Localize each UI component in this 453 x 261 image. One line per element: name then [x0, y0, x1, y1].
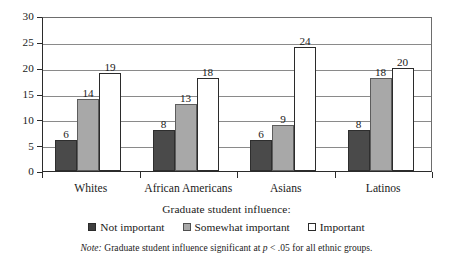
x-axis-start-tick [42, 172, 43, 178]
y-tick-label-30: 30 [0, 11, 34, 22]
legend-item-somewhat-important[interactable]: Somewhat important [183, 221, 290, 233]
legend-item-label: Important [320, 221, 365, 233]
plot-area: 6141981318692481820 [42, 17, 432, 172]
bar-latinos-not-important [348, 130, 370, 171]
legend-item-label: Somewhat important [195, 221, 290, 233]
y-tick-label-0: 0 [0, 166, 34, 177]
legend-item-important[interactable]: Important [308, 221, 365, 233]
y-tick-label-5: 5 [0, 141, 34, 152]
bar-african-americans-somewhat-important [175, 104, 197, 171]
legend: Not importantSomewhat importantImportant [0, 221, 453, 233]
note-prefix: Note: [80, 243, 101, 253]
x-label-asians: Asians [237, 183, 335, 195]
figure-note: Note: Graduate student influence signifi… [0, 243, 453, 253]
bar-value-label: 19 [93, 62, 127, 73]
x-group-separator [140, 172, 141, 178]
bar-asians-not-important [250, 140, 272, 171]
x-group-separator [237, 172, 238, 178]
y-tick-label-20: 20 [0, 63, 34, 74]
x-axis-end-tick [432, 172, 433, 178]
bar-african-americans-important [197, 78, 219, 171]
bar-asians-somewhat-important [272, 125, 294, 172]
y-tick-label-15: 15 [0, 89, 34, 100]
bar-value-label: 20 [386, 57, 420, 68]
bar-value-label: 24 [288, 36, 322, 47]
bar-latinos-important [392, 68, 414, 171]
legend-item-label: Not important [100, 221, 164, 233]
legend-item-not-important[interactable]: Not important [88, 221, 164, 233]
bar-african-americans-not-important [153, 130, 175, 171]
legend-title: Graduate student influence: [0, 203, 453, 215]
legend-swatch-icon [308, 223, 316, 231]
y-tick-label-25: 25 [0, 37, 34, 48]
bar-chart-figure: 051015202530 6141981318692481820 WhitesA… [0, 0, 453, 261]
gridline-25 [43, 44, 431, 45]
legend-swatch-icon [88, 223, 96, 231]
bar-whites-somewhat-important [77, 99, 99, 171]
bar-whites-not-important [55, 140, 77, 171]
x-label-african-americans: African Americans [140, 183, 238, 195]
note-text-after: < .05 for all ethnic groups. [268, 243, 373, 253]
x-group-separator [335, 172, 336, 178]
note-text-before: Graduate student influence significant a… [102, 243, 263, 253]
bar-asians-important [294, 47, 316, 171]
bar-latinos-somewhat-important [370, 78, 392, 171]
y-tick-label-10: 10 [0, 115, 34, 126]
bar-whites-important [99, 73, 121, 171]
x-label-latinos: Latinos [335, 183, 433, 195]
legend-swatch-icon [183, 223, 191, 231]
bar-value-label: 18 [191, 67, 225, 78]
x-label-whites: Whites [42, 183, 140, 195]
